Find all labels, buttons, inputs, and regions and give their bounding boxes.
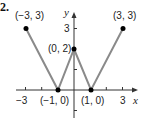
point-label: (0, 2) (48, 43, 71, 54)
point-neg3-3 (24, 26, 29, 31)
x-tick-label: 3 (120, 95, 126, 106)
problem-number: 2. (0, 0, 9, 14)
point-label: (3, 3) (113, 10, 136, 21)
y-tick-label: 3 (64, 23, 70, 34)
x-axis-label: x (132, 94, 138, 106)
point-label: (1, 0) (81, 95, 104, 106)
point-3-3 (121, 26, 126, 31)
point-neg1-0 (56, 88, 61, 93)
y-axis-label: y (63, 6, 69, 18)
graph: 2. (−3, 3) (−1, 0) (0, 2) (1, 0) (3, 3) … (0, 0, 147, 122)
point-label: (−1, 0) (40, 95, 69, 106)
x-tick-label: −3 (16, 95, 28, 106)
point-label: (−3, 3) (15, 10, 44, 21)
y-axis-arrow-icon (72, 12, 77, 18)
point-0-2 (72, 47, 77, 52)
point-1-0 (89, 88, 94, 93)
x-axis-arrow-icon (132, 88, 138, 93)
